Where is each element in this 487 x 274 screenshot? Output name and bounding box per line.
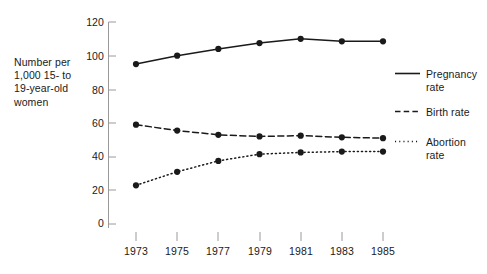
data-point-marker[interactable] — [339, 38, 345, 44]
data-point-marker[interactable] — [380, 135, 386, 141]
data-point-marker[interactable] — [215, 132, 221, 138]
series-2 — [133, 149, 386, 189]
data-point-marker[interactable] — [256, 133, 262, 139]
legend-label-pregnancy-rate: Pregnancy rate — [426, 68, 477, 94]
legend-swatch-dashed-icon — [395, 110, 420, 121]
legend-item-birth-rate[interactable]: Birth rate — [395, 106, 487, 121]
legend-item-abortion-rate[interactable]: Abortion rate — [395, 136, 487, 162]
y-axis — [109, 22, 117, 228]
data-series-layer — [133, 36, 386, 189]
data-point-marker[interactable] — [256, 40, 262, 46]
data-point-marker[interactable] — [256, 151, 262, 157]
legend-label-birth-rate: Birth rate — [426, 106, 470, 119]
legend-swatch-solid-icon — [395, 72, 420, 83]
data-point-marker[interactable] — [380, 149, 386, 155]
legend-item-pregnancy-rate[interactable]: Pregnancy rate — [395, 68, 487, 94]
data-point-marker[interactable] — [174, 53, 180, 59]
data-point-marker[interactable] — [174, 169, 180, 175]
data-point-marker[interactable] — [380, 38, 386, 44]
y-axis-ticks — [109, 22, 117, 224]
data-point-marker[interactable] — [215, 46, 221, 52]
data-point-marker[interactable] — [133, 182, 139, 188]
series-0 — [133, 36, 386, 67]
series-1 — [133, 122, 386, 142]
data-point-marker[interactable] — [298, 133, 304, 139]
data-point-marker[interactable] — [174, 127, 180, 133]
data-point-marker[interactable] — [339, 149, 345, 155]
data-point-marker[interactable] — [133, 61, 139, 67]
legend-label-abortion-rate: Abortion rate — [426, 136, 466, 162]
data-point-marker[interactable] — [133, 122, 139, 128]
chart-figure: Number per 1,000 15- to 19-year-old wome… — [0, 0, 487, 274]
data-point-marker[interactable] — [339, 134, 345, 140]
legend-swatch-dotted-icon — [395, 140, 420, 151]
data-point-marker[interactable] — [298, 149, 304, 155]
data-point-marker[interactable] — [215, 158, 221, 164]
x-axis-ticks — [136, 232, 383, 241]
data-point-marker[interactable] — [298, 36, 304, 42]
